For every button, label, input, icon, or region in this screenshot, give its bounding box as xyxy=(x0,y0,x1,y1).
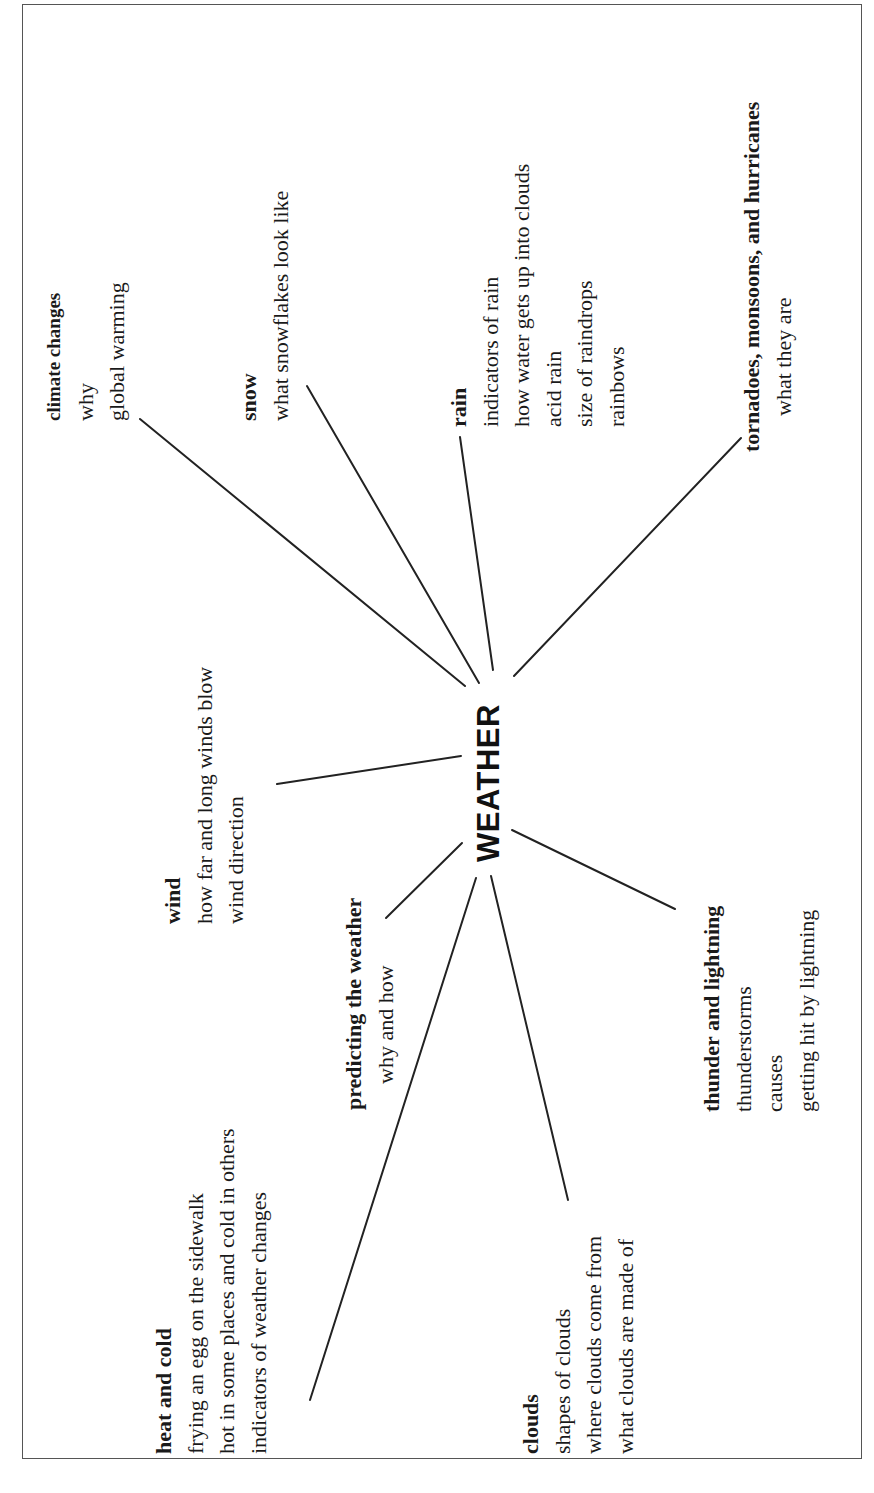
branch-predicting: predicting the weather why and how xyxy=(338,898,401,1110)
branch-item: wind direction xyxy=(220,667,252,924)
branch-tornadoes: tornadoes, monsoons, and hurricanes what… xyxy=(736,102,799,452)
branch-title: tornadoes, monsoons, and hurricanes xyxy=(736,102,768,452)
branch-item: global warming xyxy=(101,282,133,421)
branch-item: what snowflakes look like xyxy=(265,191,297,421)
branch-item: hot in some places and cold in others xyxy=(211,1128,243,1454)
branch-snow: snow what snowflakes look like xyxy=(233,191,296,421)
central-topic: WEATHER xyxy=(472,704,506,862)
branch-item: indicators of rain xyxy=(475,164,507,427)
branch-title: wind xyxy=(157,667,189,924)
branch-item: how far and long winds blow xyxy=(189,667,221,924)
branch-item: why xyxy=(70,282,102,421)
branch-climate: climate changes why global warming xyxy=(38,282,133,421)
branch-item: why and how xyxy=(370,898,402,1110)
branch-item: indicators of weather changes xyxy=(243,1128,275,1454)
link-tornadoes xyxy=(514,438,741,676)
link-rain xyxy=(460,437,493,670)
branch-rain: rain indicators of rain how water gets u… xyxy=(443,164,632,427)
branch-wind: wind how far and long winds blow wind di… xyxy=(157,667,252,924)
branch-title: climate changes xyxy=(38,282,70,421)
link-wind xyxy=(277,756,461,784)
branch-title: clouds xyxy=(515,1236,547,1454)
branch-item: shapes of clouds xyxy=(547,1236,579,1454)
branch-item: causes xyxy=(759,906,791,1112)
branch-title: predicting the weather xyxy=(338,898,370,1110)
branch-title: rain xyxy=(443,164,475,427)
branch-item: size of raindrops xyxy=(569,164,601,427)
branch-item: getting hit by lightning xyxy=(791,906,823,1112)
branch-item: what clouds are made of xyxy=(610,1236,642,1454)
branch-item: thunderstorms xyxy=(728,906,760,1112)
branch-item: where clouds come from xyxy=(578,1236,610,1454)
branch-item: what they are xyxy=(768,102,800,452)
branch-item: acid rain xyxy=(538,164,570,427)
link-climate xyxy=(140,419,465,686)
branch-title: snow xyxy=(233,191,265,421)
link-clouds xyxy=(491,876,568,1200)
branch-item: frying an egg on the sidewalk xyxy=(180,1128,212,1454)
branch-title: thunder and lightning xyxy=(696,906,728,1112)
branch-thunder: thunder and lightning thunderstorms caus… xyxy=(696,906,822,1112)
branch-item: rainbows xyxy=(601,164,633,427)
branch-heat: heat and cold frying an egg on the sidew… xyxy=(148,1128,274,1454)
link-thunder xyxy=(512,830,675,909)
branch-clouds: clouds shapes of clouds where clouds com… xyxy=(515,1236,641,1454)
link-snow xyxy=(307,386,479,683)
branch-title: heat and cold xyxy=(148,1128,180,1454)
branch-item: how water gets up into clouds xyxy=(506,164,538,427)
